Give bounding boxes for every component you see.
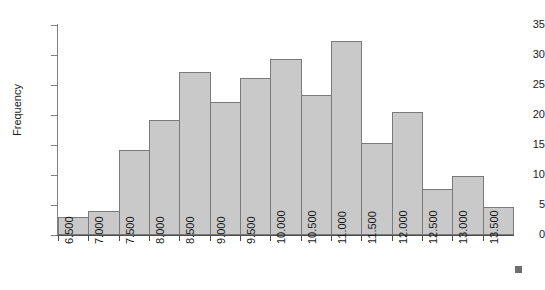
x-axis-tick — [149, 236, 150, 241]
y-axis-tick — [51, 145, 57, 146]
histogram-bar — [331, 41, 362, 235]
x-axis-tick-label: 11.500 — [367, 211, 378, 244]
y-axis-tick — [51, 205, 57, 206]
histogram-bar — [210, 102, 241, 235]
x-axis-tick-label: 7.500 — [125, 216, 136, 244]
x-axis-tick-label: 7.000 — [94, 216, 105, 244]
x-axis-tick-label: 10.000 — [276, 210, 287, 244]
x-axis-tick-label: 11.000 — [337, 211, 348, 244]
x-axis-tick — [331, 236, 332, 241]
x-axis-tick — [483, 236, 484, 241]
x-axis-tick-label: 12.500 — [428, 210, 439, 244]
x-axis-tick-label: 13.500 — [489, 210, 500, 244]
x-axis-tick — [119, 236, 120, 241]
histogram-bar — [240, 78, 271, 235]
x-axis-tick-label: 10.500 — [307, 210, 318, 244]
y-axis-title: Frequency — [11, 55, 23, 165]
histogram-bar — [270, 59, 301, 235]
x-axis-tick — [301, 236, 302, 241]
x-axis-tick-label: 9.500 — [246, 216, 257, 244]
histogram-bar — [179, 72, 210, 235]
x-axis-tick — [179, 236, 180, 241]
x-axis-tick — [392, 236, 393, 241]
x-axis-tick — [210, 236, 211, 241]
y-axis-tick — [51, 25, 57, 26]
corner-marker-square — [515, 266, 522, 273]
x-axis-tick — [361, 236, 362, 241]
x-axis-tick-label: 13.000 — [458, 210, 469, 244]
y-axis-tick — [51, 115, 57, 116]
y-axis-tick — [51, 85, 57, 86]
y-axis-tick-group — [0, 0, 49, 290]
x-axis-tick — [88, 236, 89, 241]
y-axis-tick — [51, 55, 57, 56]
x-axis-tick-label: 8.000 — [155, 216, 166, 244]
x-axis-tick-label: 6.500 — [64, 216, 75, 244]
x-axis-tick — [58, 236, 59, 241]
x-axis-tick — [270, 236, 271, 241]
x-axis-tick — [240, 236, 241, 241]
x-axis-tick-label: 9.000 — [216, 216, 227, 244]
x-axis-tick — [422, 236, 423, 241]
x-axis-tick-label: 12.000 — [398, 210, 409, 244]
x-axis-tick — [452, 236, 453, 241]
x-axis-tick-label: 8.500 — [185, 216, 196, 244]
bars-container — [58, 25, 513, 235]
histogram-chart: Frequency 05101520253035 6.5007.0007.500… — [0, 0, 545, 290]
y-axis-tick — [51, 175, 57, 176]
